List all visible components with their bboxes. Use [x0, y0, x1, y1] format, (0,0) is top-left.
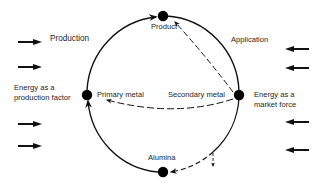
node-label-alumina: Alumina [148, 153, 175, 162]
node-label-product: Product [151, 22, 177, 31]
node-secondary-metal [234, 90, 244, 100]
label-energy-production-line2: production factor [14, 93, 71, 102]
node-label-secondary-metal: Secondary metal [168, 90, 225, 99]
label-application: Application [231, 35, 268, 44]
node-product [158, 11, 168, 21]
label-energy-production-line1: Energy as a [14, 83, 55, 92]
node-label-primary-metal: Primary metal [97, 90, 144, 99]
edge-secondary-to-primary-dashed [107, 99, 233, 109]
edge-secondary-to-alumina-solid [213, 98, 239, 152]
edge-primary-to-product [87, 17, 156, 90]
edge-secondary-to-alumina-dashed [171, 152, 213, 172]
label-energy-market-line2: market force [254, 100, 296, 109]
node-primary-metal [82, 90, 92, 100]
node-alumina [158, 167, 168, 177]
label-energy-market-line1: Energy as a [254, 90, 295, 99]
edge-secondary-to-product-dashed [175, 22, 233, 92]
label-production: Production [50, 34, 89, 43]
